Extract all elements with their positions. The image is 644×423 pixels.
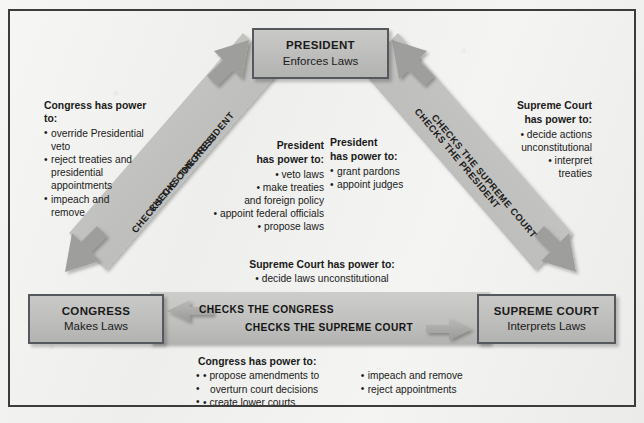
checks-and-balances-diagram: CHECKS THE PRESIDENT CHECKS THE CONGRESS… <box>0 0 644 423</box>
diagram-frame <box>8 9 636 407</box>
